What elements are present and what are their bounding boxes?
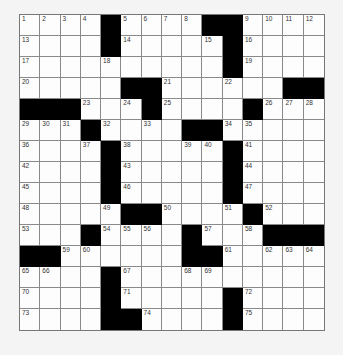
grid-cell[interactable]: 23 bbox=[81, 99, 101, 120]
grid-cell[interactable] bbox=[121, 120, 141, 141]
grid-cell[interactable] bbox=[61, 78, 81, 99]
grid-cell[interactable] bbox=[162, 183, 182, 204]
grid-cell[interactable]: 19 bbox=[243, 57, 263, 78]
grid-cell[interactable]: 18 bbox=[101, 57, 121, 78]
grid-cell[interactable] bbox=[40, 225, 60, 246]
grid-cell[interactable] bbox=[304, 162, 324, 183]
grid-cell[interactable]: 34 bbox=[223, 120, 243, 141]
grid-cell[interactable]: 64 bbox=[304, 246, 324, 267]
grid-cell[interactable] bbox=[40, 204, 60, 225]
grid-cell[interactable] bbox=[243, 267, 263, 288]
grid-cell[interactable] bbox=[142, 57, 162, 78]
grid-cell[interactable] bbox=[263, 162, 283, 183]
grid-cell[interactable]: 54 bbox=[101, 225, 121, 246]
grid-cell[interactable]: 17 bbox=[20, 57, 40, 78]
grid-cell[interactable] bbox=[61, 141, 81, 162]
grid-cell[interactable]: 48 bbox=[20, 204, 40, 225]
grid-cell[interactable]: 43 bbox=[121, 162, 141, 183]
grid-cell[interactable] bbox=[304, 267, 324, 288]
grid-cell[interactable]: 71 bbox=[121, 288, 141, 309]
grid-cell[interactable] bbox=[61, 225, 81, 246]
grid-cell[interactable]: 11 bbox=[283, 15, 303, 36]
grid-cell[interactable] bbox=[61, 162, 81, 183]
grid-cell[interactable]: 38 bbox=[121, 141, 141, 162]
grid-cell[interactable]: 1 bbox=[20, 15, 40, 36]
grid-cell[interactable]: 67 bbox=[121, 267, 141, 288]
grid-cell[interactable] bbox=[263, 183, 283, 204]
grid-cell[interactable]: 37 bbox=[81, 141, 101, 162]
grid-cell[interactable] bbox=[142, 141, 162, 162]
grid-cell[interactable]: 6 bbox=[142, 15, 162, 36]
grid-cell[interactable] bbox=[162, 288, 182, 309]
grid-cell[interactable] bbox=[40, 78, 60, 99]
grid-cell[interactable] bbox=[142, 36, 162, 57]
grid-cell[interactable] bbox=[61, 204, 81, 225]
grid-cell[interactable]: 59 bbox=[61, 246, 81, 267]
grid-cell[interactable] bbox=[182, 162, 202, 183]
grid-cell[interactable] bbox=[202, 162, 222, 183]
grid-cell[interactable]: 63 bbox=[283, 246, 303, 267]
grid-cell[interactable]: 32 bbox=[101, 120, 121, 141]
grid-cell[interactable] bbox=[182, 36, 202, 57]
grid-cell[interactable] bbox=[182, 204, 202, 225]
grid-cell[interactable] bbox=[182, 309, 202, 330]
grid-cell[interactable]: 15 bbox=[202, 36, 222, 57]
grid-cell[interactable] bbox=[121, 246, 141, 267]
grid-cell[interactable] bbox=[304, 36, 324, 57]
grid-cell[interactable] bbox=[61, 267, 81, 288]
grid-cell[interactable]: 52 bbox=[263, 204, 283, 225]
grid-cell[interactable]: 51 bbox=[223, 204, 243, 225]
grid-cell[interactable]: 4 bbox=[81, 15, 101, 36]
grid-cell[interactable] bbox=[142, 183, 162, 204]
grid-cell[interactable] bbox=[61, 183, 81, 204]
grid-cell[interactable]: 75 bbox=[243, 309, 263, 330]
grid-cell[interactable] bbox=[162, 225, 182, 246]
grid-cell[interactable]: 28 bbox=[304, 99, 324, 120]
grid-cell[interactable] bbox=[61, 36, 81, 57]
grid-cell[interactable] bbox=[101, 246, 121, 267]
grid-cell[interactable] bbox=[142, 162, 162, 183]
grid-cell[interactable] bbox=[263, 78, 283, 99]
grid-cell[interactable] bbox=[202, 204, 222, 225]
grid-cell[interactable]: 30 bbox=[40, 120, 60, 141]
grid-cell[interactable] bbox=[81, 57, 101, 78]
grid-cell[interactable] bbox=[162, 246, 182, 267]
grid-cell[interactable] bbox=[81, 267, 101, 288]
grid-cell[interactable] bbox=[283, 288, 303, 309]
grid-cell[interactable] bbox=[61, 288, 81, 309]
grid-cell[interactable]: 70 bbox=[20, 288, 40, 309]
grid-cell[interactable] bbox=[142, 246, 162, 267]
grid-cell[interactable]: 20 bbox=[20, 78, 40, 99]
grid-cell[interactable]: 49 bbox=[101, 204, 121, 225]
grid-cell[interactable] bbox=[162, 267, 182, 288]
grid-cell[interactable] bbox=[81, 183, 101, 204]
grid-cell[interactable]: 68 bbox=[182, 267, 202, 288]
grid-cell[interactable]: 47 bbox=[243, 183, 263, 204]
grid-cell[interactable] bbox=[223, 225, 243, 246]
grid-cell[interactable] bbox=[283, 57, 303, 78]
grid-cell[interactable] bbox=[162, 162, 182, 183]
grid-cell[interactable] bbox=[283, 120, 303, 141]
grid-cell[interactable]: 3 bbox=[61, 15, 81, 36]
grid-cell[interactable]: 10 bbox=[263, 15, 283, 36]
grid-cell[interactable] bbox=[182, 78, 202, 99]
grid-cell[interactable] bbox=[263, 141, 283, 162]
grid-cell[interactable] bbox=[182, 288, 202, 309]
grid-cell[interactable] bbox=[81, 204, 101, 225]
grid-cell[interactable] bbox=[283, 36, 303, 57]
grid-cell[interactable] bbox=[263, 309, 283, 330]
grid-cell[interactable] bbox=[202, 57, 222, 78]
grid-cell[interactable] bbox=[202, 99, 222, 120]
grid-cell[interactable] bbox=[263, 288, 283, 309]
grid-cell[interactable]: 45 bbox=[20, 183, 40, 204]
grid-cell[interactable]: 74 bbox=[142, 309, 162, 330]
grid-cell[interactable]: 65 bbox=[20, 267, 40, 288]
grid-cell[interactable] bbox=[61, 309, 81, 330]
grid-cell[interactable] bbox=[263, 120, 283, 141]
grid-cell[interactable] bbox=[263, 36, 283, 57]
grid-cell[interactable] bbox=[263, 267, 283, 288]
grid-cell[interactable] bbox=[40, 288, 60, 309]
grid-cell[interactable] bbox=[142, 267, 162, 288]
grid-cell[interactable] bbox=[304, 288, 324, 309]
grid-cell[interactable] bbox=[81, 309, 101, 330]
